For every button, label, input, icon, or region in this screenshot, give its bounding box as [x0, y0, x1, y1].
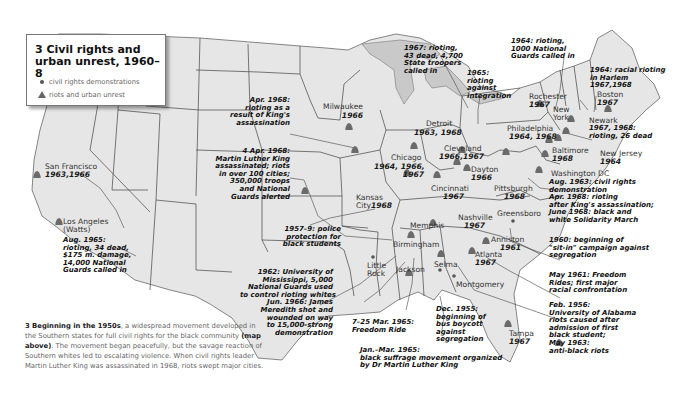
city-new-jersey: New Jersey1964 — [600, 150, 642, 167]
note-birmingham-1956: Feb. 1956:University of Alabamariots cau… — [549, 302, 636, 355]
city-nashville: Nashville1967 — [458, 214, 493, 231]
city-little-rock: LittleRock — [367, 262, 386, 279]
note-montgomery-1955: Dec. 1955:beginning ofbus boycottagainst… — [436, 306, 486, 344]
legend-item-demonstrations: civil rights demonstrations — [41, 78, 140, 86]
city-jackson: Jackson — [396, 266, 425, 274]
city-kansas-city: Kansas City1968 — [356, 194, 392, 211]
note-freedom-ride-1965: 7–25 Mar. 1965:Freedom Ride — [352, 319, 414, 334]
city-tampa: Tampa1967 — [509, 330, 534, 347]
city-selma: Selma — [434, 261, 458, 269]
city-birmingham: Birmingham — [393, 241, 439, 249]
city-atlanta: Atlanta1967 — [475, 251, 502, 268]
note-integration-1965: 1965:riotingagainstintegration — [467, 70, 511, 100]
city-newark: Newark 1967, 1968:rioting, 26 dead — [589, 117, 652, 141]
note-washington-dc: Aug. 1963: civil rightsdemonstrationApr.… — [549, 179, 654, 225]
city-memphis: Memphis — [410, 222, 444, 230]
note-little-rock-1957: 1957–9: policeprotection forblack studen… — [276, 226, 341, 249]
years-detroit: 1963, 1968 — [414, 129, 462, 137]
note-chicago-apr-1968: Apr. 1968:rioting as aresult of King'sas… — [230, 97, 290, 127]
city-new-york: NewYork — [553, 106, 570, 123]
city-los-angeles: Los Angeles (Watts) — [63, 218, 108, 235]
city-baltimore: Baltimore1968 — [552, 147, 589, 164]
note-los-angeles: Aug. 1965:rioting, 34 dead,$175 m. damag… — [63, 237, 131, 275]
city-boston: Boston1967 — [597, 91, 623, 108]
city-cincinnati: Cincinnati1967 — [431, 185, 469, 202]
dot-icon — [40, 80, 44, 84]
note-anniston-1961: May 1961: FreedomRides; first majorracia… — [549, 272, 627, 295]
note-memphis-4apr-1968: 4 Apr. 1968:Martin Luther Kingassassinat… — [208, 148, 290, 201]
note-detroit-1967: 1967: rioting,43 dead, 4,700State troope… — [404, 45, 463, 75]
city-cleveland: Cleveland1966,1967 — [444, 145, 484, 162]
years-chicago: 1964, 1966,1967 — [374, 163, 424, 180]
note-selma-1965: Jan.–Mar. 1965:black suffrage movement o… — [360, 347, 502, 370]
riot-marker-icon — [38, 91, 46, 98]
caption-lead: 3 Beginning in the 1950s — [25, 322, 121, 330]
note-rochester-1964: 1964: rioting,1000 NationalGuards called… — [511, 38, 575, 61]
note-harlem-1964: 1964: racial riotingin Harlem1967,1968 — [590, 67, 665, 90]
map-title: 3 Civil rights and urban unrest, 1960–8 — [35, 44, 163, 80]
city-philadelphia: Philadelphia1964, 1968 — [507, 125, 557, 142]
map-legend: 3 Civil rights and urban unrest, 1960–8 … — [26, 34, 166, 106]
legend-item-riots: riots and urban unrest — [41, 91, 125, 99]
note-greensboro-1960: 1960: beginning of"sit-in" campaign agai… — [549, 237, 649, 260]
city-greensboro: Greensboro — [497, 210, 541, 218]
city-pittsburgh: Pittsburgh1968 — [494, 185, 533, 202]
city-san-francisco: San Francisco 1963,1966 — [45, 163, 97, 180]
city-montgomery: Montgomery — [456, 281, 504, 289]
city-dayton: Dayton1966 — [471, 166, 498, 183]
map-caption: 3 Beginning in the 1950s, a widespread m… — [25, 321, 265, 371]
